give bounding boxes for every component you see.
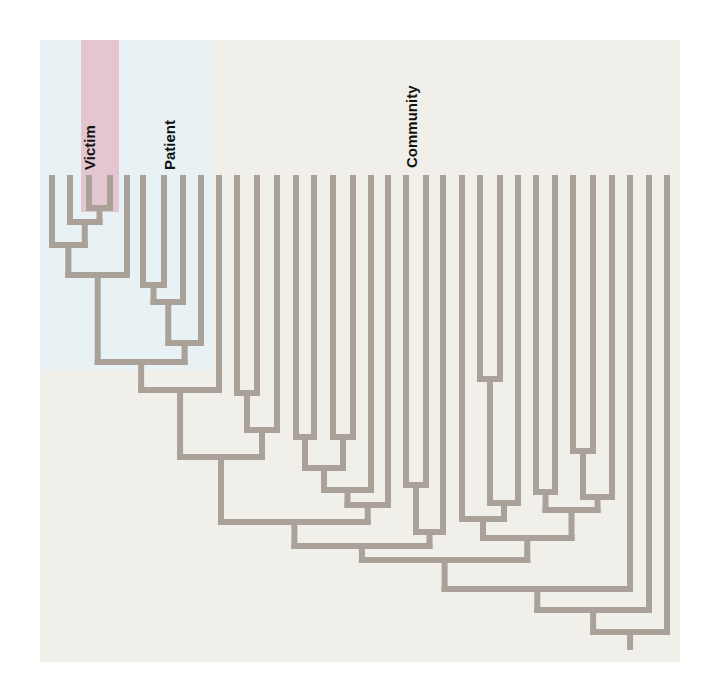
dendrogram-figure: Victim Patient Community: [0, 0, 713, 673]
phylogenetic-tree: [0, 0, 713, 673]
community-label: Community: [403, 86, 420, 169]
patient-label: Patient: [161, 120, 178, 170]
victim-label: Victim: [81, 125, 98, 170]
